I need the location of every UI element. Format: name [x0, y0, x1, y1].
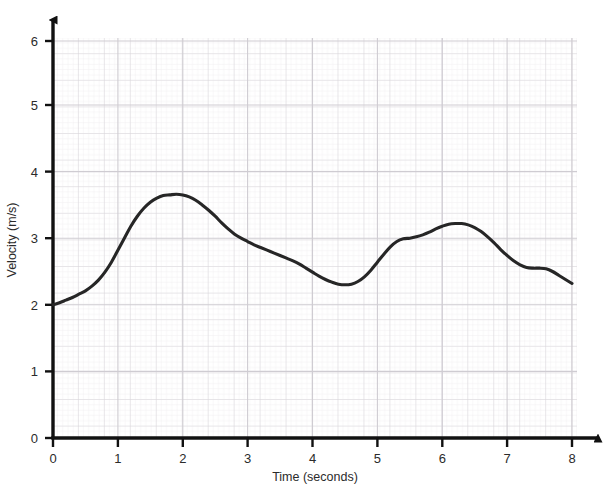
y-tick-label-0: 0	[31, 431, 38, 446]
x-axis-title: Time (seconds)	[272, 470, 358, 484]
x-tick-label-7: 7	[503, 451, 510, 466]
y-tick-label-2: 2	[31, 298, 38, 313]
chart-canvas: 0 1 2 3 4 5 6 0 1 2 3 4 5 6 7 8 Time (se…	[0, 0, 613, 486]
velocity-time-chart: 0 1 2 3 4 5 6 0 1 2 3 4 5 6 7 8 Time (se…	[0, 0, 613, 486]
x-tick-label-1: 1	[114, 451, 121, 466]
x-tick-label-0: 0	[49, 451, 56, 466]
x-tick-label-3: 3	[244, 451, 251, 466]
x-tick-label-6: 6	[439, 451, 446, 466]
y-tick-label-3: 3	[31, 231, 38, 246]
y-axis-title: Velocity (m/s)	[5, 202, 19, 277]
x-tick-label-8: 8	[568, 451, 575, 466]
y-tick-label-4: 4	[31, 165, 38, 180]
y-tick-label-1: 1	[31, 364, 38, 379]
y-tick-label-6: 6	[31, 34, 38, 49]
y-tick-label-5: 5	[31, 98, 38, 113]
x-tick-label-5: 5	[374, 451, 381, 466]
x-tick-label-2: 2	[179, 451, 186, 466]
x-tick-label-4: 4	[309, 451, 316, 466]
